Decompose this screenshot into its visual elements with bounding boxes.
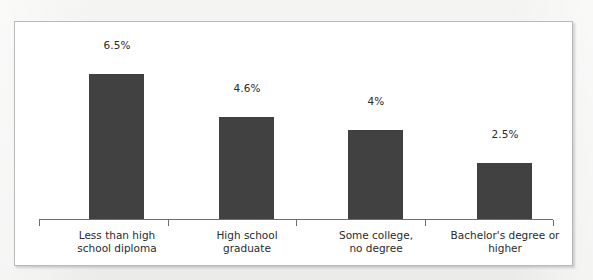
bar-high-school-graduate xyxy=(219,117,274,219)
bar-less-than-high-school xyxy=(89,74,144,219)
category-label-1-line-1: graduate xyxy=(216,242,277,255)
x-axis-tick-2 xyxy=(296,220,297,226)
category-label-2-line-1: no degree xyxy=(339,242,413,255)
category-label-3-line-0: Bachelor's degree or xyxy=(451,229,560,242)
bar-value-label-2: 4% xyxy=(368,95,385,107)
category-label-1-line-0: High school xyxy=(216,229,277,242)
category-label-3-line-1: higher xyxy=(451,242,560,255)
x-axis-tick-0 xyxy=(39,220,40,226)
bar-value-label-1: 4.6% xyxy=(233,82,260,94)
bar-bachelors-or-higher xyxy=(477,163,532,219)
x-axis-tick-3 xyxy=(425,220,426,226)
x-axis-tick-4 xyxy=(553,220,554,226)
x-axis-tick-1 xyxy=(168,220,169,226)
bar-value-label-3: 2.5% xyxy=(491,128,518,140)
category-label-0: Less than high school diploma xyxy=(77,229,156,255)
category-label-2-line-0: Some college, xyxy=(339,229,413,242)
category-label-1: High school graduate xyxy=(216,229,277,255)
category-label-0-line-1: school diploma xyxy=(77,242,156,255)
plot-area: 6.5% 4.6% 4% 2.5% Less than high school … xyxy=(15,22,572,265)
bar-value-label-0: 6.5% xyxy=(103,39,130,51)
category-label-3: Bachelor's degree or higher xyxy=(451,229,560,255)
category-label-2: Some college, no degree xyxy=(339,229,413,255)
figure-root: 6.5% 4.6% 4% 2.5% Less than high school … xyxy=(0,0,593,280)
category-label-0-line-0: Less than high xyxy=(77,229,156,242)
chart-frame: 6.5% 4.6% 4% 2.5% Less than high school … xyxy=(14,21,573,266)
bar-some-college xyxy=(348,130,403,219)
